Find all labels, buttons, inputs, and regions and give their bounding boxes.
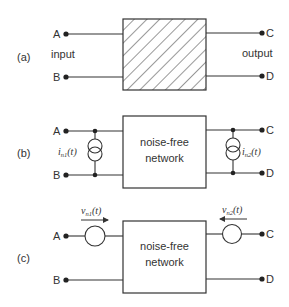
voltage-source-vn2-icon: [223, 225, 242, 244]
panel-b: (b) noise-free network A B C D in1(t): [17, 116, 274, 188]
terminal-label-d: D: [266, 70, 274, 82]
panel-c-tag: (c): [17, 252, 30, 264]
terminal-dot-a: [63, 128, 68, 133]
panel-a-tag: (a): [17, 51, 30, 63]
terminal-dot-c: [259, 231, 264, 236]
terminal-dot-b: [63, 172, 68, 177]
output-label: output: [242, 47, 273, 59]
terminal-label-c: C: [266, 27, 274, 39]
terminal-dot-d: [259, 73, 264, 78]
vn2-label: vn2(t): [222, 204, 243, 216]
terminal-label-c: C: [266, 228, 274, 240]
terminal-label-a: A: [53, 28, 61, 40]
current-source-in1-icon: [88, 129, 102, 178]
panel-a: (a) A B C D input output: [17, 19, 274, 90]
in1-label: in1(t): [58, 146, 77, 158]
terminal-dot-a: [63, 31, 68, 36]
box-label-line1: noise-free: [140, 136, 189, 148]
terminal-dot-d: [259, 276, 264, 281]
terminal-label-c: C: [266, 124, 274, 136]
terminal-dot-c: [259, 127, 264, 132]
terminal-label-b: B: [53, 274, 60, 286]
panel-b-tag: (b): [17, 147, 30, 159]
terminal-dot-b: [63, 74, 68, 79]
two-port-noise-diagram: (a) A B C D input output (b) noise-free …: [0, 0, 289, 307]
panel-c: (c) noise-free network A B C D vn1(t) vn…: [17, 204, 274, 293]
voltage-source-vn1-icon: [85, 226, 105, 246]
current-source-in2-icon: [226, 128, 240, 176]
terminal-dot-b: [63, 277, 68, 282]
terminal-label-d: D: [266, 273, 274, 285]
terminal-label-a: A: [53, 125, 61, 137]
terminal-label-a: A: [53, 230, 61, 242]
in2-label: in2(t): [242, 146, 261, 158]
input-label: input: [51, 48, 75, 60]
box-label-line2: network: [145, 152, 184, 164]
terminal-dot-d: [259, 170, 264, 175]
terminal-dot-c: [259, 30, 264, 35]
terminal-label-d: D: [266, 167, 274, 179]
terminal-label-b: B: [53, 169, 60, 181]
box-label-line2: network: [145, 256, 184, 268]
vn1-label: vn1(t): [81, 205, 102, 217]
box-label-line1: noise-free: [140, 240, 189, 252]
hatched-two-port-box: [123, 19, 206, 90]
terminal-label-b: B: [53, 71, 60, 83]
terminal-dot-a: [63, 233, 68, 238]
